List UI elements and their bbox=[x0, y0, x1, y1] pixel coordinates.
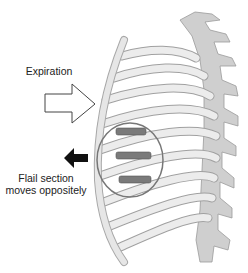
rib-cage-diagram bbox=[0, 0, 248, 273]
flail-label-line2: moves oppositely bbox=[0, 184, 92, 196]
expiration-arrow-icon bbox=[45, 84, 95, 123]
flail-section-label: Flail section moves oppositely bbox=[0, 172, 92, 196]
expiration-label: Expiration bbox=[14, 65, 84, 77]
flail-label-line1: Flail section bbox=[0, 172, 92, 184]
flail-direction-arrow-icon bbox=[64, 148, 88, 168]
